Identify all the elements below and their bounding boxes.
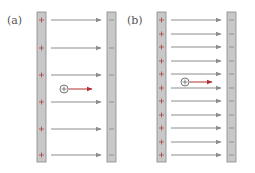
negative-plate xyxy=(107,12,116,162)
panel-b: (b) xyxy=(127,12,236,162)
positive-plate xyxy=(37,12,46,162)
negative-plate xyxy=(227,12,236,162)
panel-a: (a) xyxy=(7,12,116,162)
panel-label: (b) xyxy=(127,14,143,27)
parallel-plate-field-diagram: (a) (b) xyxy=(0,0,255,173)
panel-label: (a) xyxy=(7,14,22,27)
